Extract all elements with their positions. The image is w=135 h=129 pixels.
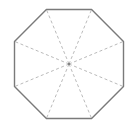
spoke-line-6: [15, 64, 70, 87]
center-point: [68, 63, 70, 65]
spoke-line-5: [46, 64, 69, 119]
spoke-line-8: [46, 10, 69, 65]
spoke-line-2: [69, 41, 124, 64]
octagon-diagram: [0, 0, 135, 129]
spoke-line-4: [69, 64, 92, 119]
spoke-line-7: [15, 41, 70, 64]
spoke-line-3: [69, 64, 124, 87]
spoke-line-1: [69, 10, 92, 65]
